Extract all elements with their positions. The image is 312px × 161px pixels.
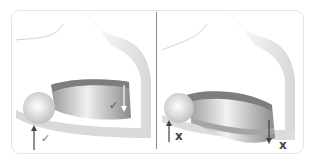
panel-incorrect: x x bbox=[157, 10, 302, 152]
check-icon: ✓ bbox=[41, 133, 50, 144]
cross-icon: x bbox=[279, 140, 287, 151]
panel-correct: ✓ ✓ bbox=[11, 10, 156, 152]
cross-icon: x bbox=[175, 131, 183, 142]
check-icon: ✓ bbox=[109, 100, 118, 111]
collar-correct-illustration bbox=[11, 10, 156, 152]
